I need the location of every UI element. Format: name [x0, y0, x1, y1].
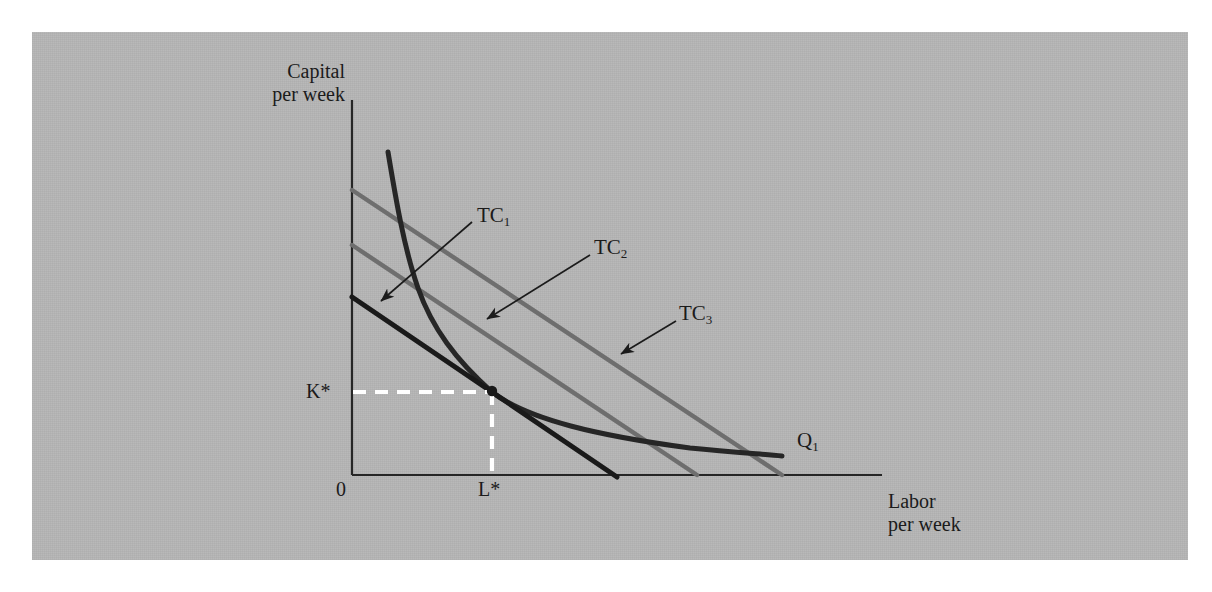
x-axis-title-line1: Labor	[888, 490, 1048, 513]
isocost-line-tc1	[352, 297, 617, 477]
y-axis-title: Capital per week	[200, 60, 345, 106]
isocost-label-tc2: TC2	[594, 235, 627, 260]
tc1-label-text: TC	[477, 203, 504, 227]
tc2-annotation-arrow	[487, 255, 590, 319]
tc2-label-text: TC	[594, 235, 621, 259]
x-axis-title: Labor per week	[888, 490, 1048, 536]
isoquant-label-q1: Q1	[797, 428, 819, 453]
figure-page: Capital per week Labor per week 0 K* L* …	[0, 0, 1212, 592]
isocost-line-tc3	[352, 190, 782, 475]
origin-label: 0	[336, 478, 346, 501]
isocost-label-tc1: TC1	[477, 203, 510, 228]
isoquant-curve-q1	[388, 152, 782, 456]
l-star-tick-label: L*	[478, 478, 500, 501]
tc3-annotation-arrow	[621, 321, 676, 354]
x-axis-title-line2: per week	[888, 513, 1048, 536]
tc2-label-subscript: 2	[621, 246, 628, 261]
axis-lines	[352, 100, 882, 475]
tc1-label-subscript: 1	[504, 214, 511, 229]
tc3-label-text: TC	[679, 301, 706, 325]
q1-label-subscript: 1	[812, 439, 819, 454]
y-axis-title-line1: Capital	[200, 60, 345, 83]
q1-label-text: Q	[797, 428, 812, 452]
y-axis-title-line2: per week	[200, 83, 345, 106]
tc3-label-subscript: 3	[706, 312, 713, 327]
isocost-label-tc3: TC3	[679, 301, 712, 326]
tangency-point-dot	[487, 386, 497, 396]
k-star-tick-label: K*	[306, 380, 330, 403]
